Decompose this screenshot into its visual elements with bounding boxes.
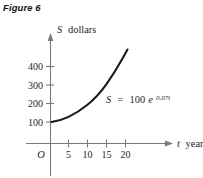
origin-label: O [37,149,45,160]
x-axis-label: t years [177,138,203,149]
y-axis-label: S dollars [57,24,96,35]
x-axis-label-symbol: t [177,138,181,149]
equation-equals: = [117,94,123,105]
x-tick-label-20: 20 [121,149,131,160]
x-tick-label-15: 15 [102,149,112,160]
equation-base: e [148,94,153,105]
x-axis-arrowhead [165,141,173,147]
y-axis-arrowhead [48,33,54,41]
equation-coefficient: 100 [129,94,145,105]
y-axis-label-unit: dollars [68,24,97,35]
y-tick-label-200: 200 [28,98,43,109]
x-tick-label-10: 10 [83,149,93,160]
x-tick-label-5: 5 [66,149,71,160]
exponential-curve [52,50,128,123]
x-axis-label-unit: years [186,138,203,149]
y-tick-label-400: 400 [28,61,43,72]
equation-lhs: S [106,94,112,105]
y-axis-label-symbol: S [57,24,63,35]
y-tick-label-300: 300 [28,80,43,91]
y-tick-label-100: 100 [28,117,43,128]
curve-equation-annotation: S = 100 e 0.07t [106,94,171,106]
equation-exponent: 0.07t [156,94,171,102]
exponential-growth-plot: 400 300 200 100 5 10 15 20 O S dollars t… [0,0,203,178]
figure-container: Figure 6 400 300 200 100 5 10 [0,0,203,178]
